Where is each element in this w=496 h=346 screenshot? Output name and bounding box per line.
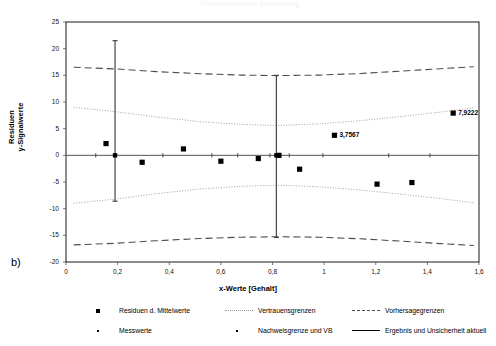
legend-item-messwerte[interactable]: Messwerte bbox=[86, 326, 152, 335]
x-axis-tick-label: 0,6 bbox=[209, 268, 233, 275]
messwert-marker bbox=[269, 153, 270, 157]
messwert-marker bbox=[322, 153, 323, 157]
y-axis-tick-label: -5 bbox=[37, 178, 59, 185]
residual-marker bbox=[276, 153, 281, 158]
x-axis-tick-label: 1,2 bbox=[364, 268, 388, 275]
confidence-band-line bbox=[74, 107, 474, 125]
y-axis-tick-label: 0 bbox=[37, 151, 59, 158]
square-marker-icon bbox=[86, 306, 114, 315]
chart-legend: Residuen d. Mittelwerte Vertrauensgrenze… bbox=[0, 300, 496, 346]
residual-marker bbox=[256, 156, 261, 161]
legend-label: Vorhersagegrenzen bbox=[385, 307, 444, 314]
y-axis-tick-label: -15 bbox=[37, 231, 59, 238]
messwert-marker bbox=[388, 153, 389, 157]
residual-marker bbox=[181, 146, 186, 151]
messwert-marker bbox=[429, 153, 430, 157]
x-axis-tick-label: 0,4 bbox=[157, 268, 181, 275]
legend-label: Ergebnis und Unsicherheit aktuell bbox=[385, 327, 486, 334]
y-axis-tick-label: 15 bbox=[37, 71, 59, 78]
residual-marker bbox=[103, 141, 108, 146]
x-axis-tick-label: 0,8 bbox=[261, 268, 285, 275]
residual-value-label: 3,7567 bbox=[339, 131, 359, 138]
x-axis-tick-label: 0,2 bbox=[106, 268, 130, 275]
y-axis-tick-label: 5 bbox=[37, 125, 59, 132]
residual-marker bbox=[374, 182, 379, 187]
plot-canvas bbox=[0, 0, 496, 346]
solid-line-icon bbox=[352, 326, 380, 335]
figure-panel: Residuenanalyse Kalibrierung b) Residuen… bbox=[0, 0, 496, 346]
residual-marker bbox=[451, 110, 456, 115]
x-axis-tick-label: 1,6 bbox=[467, 268, 491, 275]
y-axis-tick-label: 20 bbox=[37, 45, 59, 52]
dot-marker-icon bbox=[225, 326, 253, 335]
residual-marker bbox=[332, 133, 337, 138]
prediction-band-line bbox=[74, 237, 474, 246]
messwert-marker bbox=[289, 153, 290, 157]
legend-item-nachweisgrenze-vb[interactable]: Nachweisgrenze und VB bbox=[225, 326, 332, 335]
dashed-line-icon bbox=[352, 306, 380, 315]
y-axis-tick-label: -20 bbox=[37, 258, 59, 265]
residual-marker bbox=[140, 160, 145, 165]
residual-marker bbox=[218, 159, 223, 164]
prediction-band-line bbox=[74, 67, 474, 76]
plot-frame bbox=[66, 22, 479, 262]
messwert-marker bbox=[237, 153, 238, 157]
residual-marker bbox=[409, 180, 414, 185]
dotted-line-icon bbox=[225, 306, 253, 315]
messwert-marker bbox=[162, 153, 163, 157]
residual-marker bbox=[297, 167, 302, 172]
x-axis-tick-label: 0 bbox=[54, 268, 78, 275]
x-axis-tick-label: 1 bbox=[312, 268, 336, 275]
legend-label: Messwerte bbox=[119, 327, 152, 334]
y-axis-tick-label: -10 bbox=[37, 205, 59, 212]
y-axis-tick-label: 25 bbox=[37, 18, 59, 25]
legend-label: Residuen d. Mittelwerte bbox=[119, 307, 190, 314]
legend-label: Nachweisgrenze und VB bbox=[258, 327, 332, 334]
confidence-band-line bbox=[74, 185, 474, 203]
y-axis-tick-label: 10 bbox=[37, 98, 59, 105]
messwert-marker bbox=[211, 153, 212, 157]
legend-label: Vertrauensgrenzen bbox=[258, 307, 315, 314]
x-axis-tick-label: 1,4 bbox=[415, 268, 439, 275]
legend-item-ergebnis-unsicherheit[interactable]: Ergebnis und Unsicherheit aktuell bbox=[352, 326, 486, 335]
legend-item-vertrauensgrenzen[interactable]: Vertrauensgrenzen bbox=[225, 306, 315, 315]
residual-value-label: 7,9222 bbox=[458, 109, 478, 116]
uncertainty-bar-center-marker bbox=[113, 153, 117, 157]
legend-item-residuen-mittelwerte[interactable]: Residuen d. Mittelwerte bbox=[86, 306, 190, 315]
legend-item-vorhersagegrenzen[interactable]: Vorhersagegrenzen bbox=[352, 306, 444, 315]
dot-marker-icon bbox=[86, 326, 114, 335]
messwert-marker bbox=[95, 153, 96, 157]
